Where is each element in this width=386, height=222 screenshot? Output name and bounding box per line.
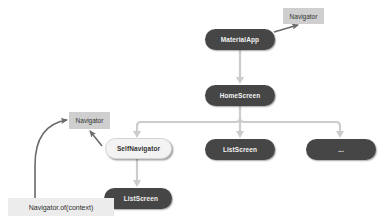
node-home-screen: HomeScreen (205, 85, 275, 106)
node-material-app-label: MaterialApp (221, 36, 259, 43)
node-home-screen-label: HomeScreen (220, 92, 261, 99)
navigator-of-context-text: Navigator.of(context) (29, 204, 94, 211)
edge-homescreen-children (133, 106, 344, 138)
node-self-navigator-label: SelfNavigator (117, 145, 160, 152)
node-ellipsis: ... (306, 139, 376, 160)
node-list-screen-middle-label: ListScreen (223, 146, 257, 153)
node-list-screen-bottom: ListScreen (104, 188, 172, 209)
connector-lines (0, 0, 386, 222)
ref-arrow-materialapp-navigator (274, 25, 298, 32)
node-ellipsis-label: ... (338, 146, 344, 153)
edge-selfnavigator-listscreen (133, 159, 141, 187)
node-material-app: MaterialApp (205, 29, 275, 50)
node-list-screen-bottom-label: ListScreen (124, 195, 158, 202)
navigator-label-left: Navigator (69, 112, 110, 129)
widget-tree-diagram: Navigator MaterialApp HomeScreen Navigat… (0, 0, 386, 222)
node-list-screen-middle: ListScreen (205, 139, 275, 160)
ref-arrow-selfnavigator-navigator (90, 131, 102, 146)
navigator-of-context-label: Navigator.of(context) (8, 198, 114, 216)
navigator-label-left-text: Navigator (76, 117, 104, 124)
ref-arrow-navigatorof-navigator (35, 120, 67, 198)
navigator-label-top-text: Navigator (290, 13, 318, 20)
edge-materialapp-homescreen (236, 50, 244, 84)
node-self-navigator: SelfNavigator (105, 138, 172, 159)
navigator-label-top: Navigator (283, 8, 324, 24)
